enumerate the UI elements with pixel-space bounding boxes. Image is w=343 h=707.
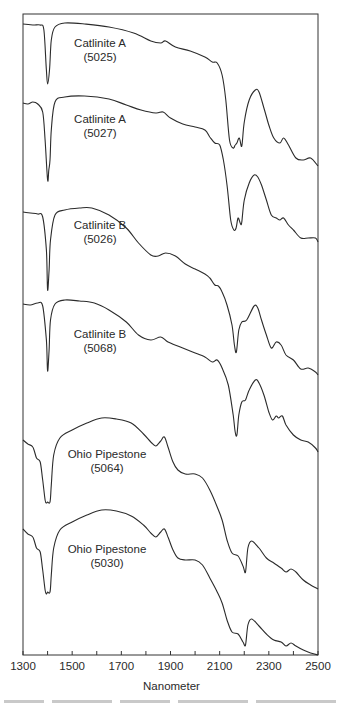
caption-fragment xyxy=(4,700,44,703)
x-tick-label: 1900 xyxy=(158,660,184,672)
caption-fragment xyxy=(52,700,112,703)
series-label-name: Catlinite B xyxy=(40,327,160,341)
series-label: Catlinite B(5068) xyxy=(40,327,160,355)
caption-fragment xyxy=(256,700,336,703)
series-label-name: Catlinite A xyxy=(40,112,160,126)
series-label: Ohio Pipestone(5030) xyxy=(47,542,167,570)
x-tick-label: 1300 xyxy=(10,660,36,672)
series-label-name: Catlinite B xyxy=(40,218,160,232)
spectrum-line xyxy=(23,510,318,655)
caption-fragment xyxy=(120,700,170,703)
series-label-id: (5064) xyxy=(47,461,167,475)
series-label-name: Catlinite A xyxy=(40,36,160,50)
x-tick-label: 2100 xyxy=(207,660,233,672)
spectrum-line xyxy=(23,300,318,452)
series-label: Ohio Pipestone(5064) xyxy=(47,447,167,475)
series-label-id: (5027) xyxy=(40,126,160,140)
series-label: Catlinite A(5025) xyxy=(40,36,160,64)
x-tick-label: 1700 xyxy=(109,660,135,672)
series-label-id: (5025) xyxy=(40,50,160,64)
x-tick-label: 1500 xyxy=(59,660,85,672)
caption-fragment xyxy=(178,700,248,703)
x-axis-ticks xyxy=(23,651,318,655)
series-label-id: (5030) xyxy=(47,556,167,570)
series-label-id: (5026) xyxy=(40,232,160,246)
series-label-name: Ohio Pipestone xyxy=(47,447,167,461)
series-label-id: (5068) xyxy=(40,341,160,355)
x-axis-title: Nanometer xyxy=(0,680,343,692)
series-label: Catlinite B(5026) xyxy=(40,218,160,246)
x-tick-label: 2500 xyxy=(305,660,331,672)
series-label: Catlinite A(5027) xyxy=(40,112,160,140)
series-label-name: Ohio Pipestone xyxy=(47,542,167,556)
x-tick-label: 2300 xyxy=(256,660,282,672)
